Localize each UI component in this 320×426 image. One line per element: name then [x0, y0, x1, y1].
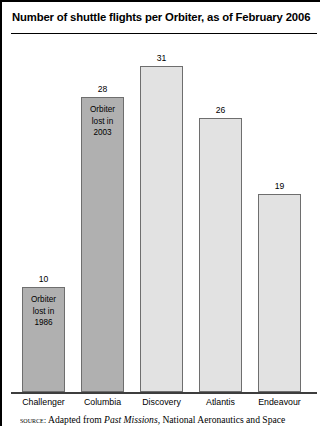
bar-note-line: Orbiter [25, 294, 62, 306]
bar-value-discovery: 31 [140, 53, 183, 63]
bar-value-atlantis: 26 [199, 105, 242, 115]
bar-note-line: 2003 [84, 127, 121, 139]
bar-challenger[interactable]: Orbiter lost in 1986 [22, 287, 65, 392]
bar-endeavour[interactable] [258, 194, 301, 392]
bar-note-challenger: Orbiter lost in 1986 [23, 294, 64, 329]
bar-group-columbia: 28 Orbiter lost in 2003 [81, 34, 124, 392]
source-text-after: , National Aeronautics and Space [158, 414, 286, 425]
page-title: Number of shuttle flights per Orbiter, a… [12, 10, 314, 24]
bars-layer: 10 Orbiter lost in 1986 28 Orbiter lost … [2, 34, 320, 392]
x-label-endeavour: Endeavour [258, 396, 301, 408]
bar-value-endeavour: 19 [258, 181, 301, 191]
chart-figure: Number of shuttle flights per Orbiter, a… [0, 0, 320, 426]
bar-note-line: 1986 [25, 317, 62, 329]
x-label-atlantis: Atlantis [199, 396, 242, 408]
bar-note-line: Orbiter [84, 104, 121, 116]
source-title-italic: Past Missions [104, 414, 158, 425]
chart-title-block: Number of shuttle flights per Orbiter, a… [12, 10, 314, 32]
x-axis-labels: Challenger Columbia Discovery Atlantis E… [2, 396, 320, 410]
x-label-columbia: Columbia [81, 396, 124, 408]
bar-note-line: lost in [25, 306, 62, 318]
source-label: source: [20, 415, 46, 425]
bar-columbia[interactable]: Orbiter lost in 2003 [81, 97, 124, 392]
bar-discovery[interactable] [140, 66, 183, 392]
bar-group-challenger: 10 Orbiter lost in 1986 [22, 34, 65, 392]
bar-group-atlantis: 26 [199, 34, 242, 392]
bar-value-columbia: 28 [81, 84, 124, 94]
source-note: source: Adapted from Past Missions, Nati… [20, 414, 320, 426]
plot-area: 10 Orbiter lost in 1986 28 Orbiter lost … [2, 34, 320, 393]
bar-atlantis[interactable] [199, 118, 242, 392]
x-label-challenger: Challenger [22, 396, 65, 408]
bar-group-endeavour: 19 [258, 34, 301, 392]
bar-note-columbia: Orbiter lost in 2003 [82, 104, 123, 139]
bar-group-discovery: 31 [140, 34, 183, 392]
x-axis-line [11, 392, 317, 394]
bar-note-line: lost in [84, 116, 121, 128]
bar-value-challenger: 10 [22, 274, 65, 284]
source-text-before: Adapted from [46, 414, 104, 425]
x-label-discovery: Discovery [140, 396, 183, 408]
